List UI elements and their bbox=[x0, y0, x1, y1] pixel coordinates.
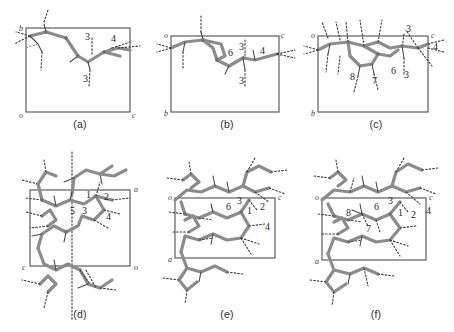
hydrogen-bond bbox=[189, 162, 191, 174]
hydrogen-bond bbox=[30, 226, 48, 228]
ring-label-1: 1 bbox=[398, 207, 403, 218]
axis-label-b: b bbox=[19, 24, 23, 33]
molecular-chain bbox=[318, 42, 428, 50]
ring-label-3-lower: 3 bbox=[404, 69, 409, 80]
substituent-bond bbox=[358, 66, 360, 76]
atom-node bbox=[388, 212, 391, 215]
hydrogen-bond bbox=[336, 22, 340, 40]
hydrogen-bond bbox=[169, 212, 185, 214]
ring-motif bbox=[40, 276, 56, 292]
substituent-bond bbox=[78, 284, 88, 288]
panel-d: a o c 1 2 5 3 4 (d) bbox=[8, 148, 152, 324]
hydrogen-bond bbox=[269, 188, 285, 194]
ring-label-4: 4 bbox=[106, 211, 111, 222]
atom-node bbox=[201, 38, 204, 41]
axis-label-b: b bbox=[164, 109, 168, 118]
hydrogen-bond bbox=[277, 54, 295, 58]
hydrogen-bond bbox=[310, 280, 326, 282]
atom-node bbox=[215, 58, 218, 61]
axis-label-b: b bbox=[311, 109, 315, 118]
panel-f: o c a 3 6 1 2 4 8 7 (f) bbox=[302, 148, 450, 324]
hydrogen-bond bbox=[41, 52, 42, 70]
ring-label-3-upper: 3 bbox=[85, 31, 90, 42]
ring-label-2: 2 bbox=[411, 209, 416, 220]
hydrogen-bond bbox=[360, 20, 364, 46]
hydrogen-bond bbox=[378, 274, 394, 276]
axis-label-a: a bbox=[134, 185, 138, 194]
ring-label-8: 8 bbox=[346, 207, 351, 218]
hydrogen-bond bbox=[96, 182, 100, 196]
panel-e-caption: (e) bbox=[155, 308, 299, 320]
ring-label-3: 3 bbox=[82, 205, 87, 216]
substituent-bond bbox=[199, 272, 201, 282]
substituent-bond bbox=[362, 176, 364, 186]
substituent-bond bbox=[225, 66, 229, 74]
axis-label-o: o bbox=[168, 193, 172, 202]
substituent-bond bbox=[213, 176, 215, 186]
hydrogen-bond bbox=[376, 220, 380, 232]
molecular-chain bbox=[30, 32, 120, 62]
panel-c-caption: (c) bbox=[302, 118, 450, 130]
ring-label-1: 1 bbox=[247, 205, 252, 216]
molecular-chain bbox=[104, 48, 130, 52]
ring-label-2: 2 bbox=[260, 201, 265, 212]
panel-d-diagram: a o c 1 2 5 3 4 bbox=[8, 148, 152, 324]
panel-c-diagram: o c b 3 4 8 7 6 3 bbox=[302, 4, 450, 124]
panel-a-diagram: b o c 3 4 3 bbox=[8, 4, 152, 124]
ring-label-4: 4 bbox=[433, 41, 438, 52]
atom-node bbox=[241, 56, 244, 59]
ring-motif bbox=[38, 172, 56, 184]
atom-node bbox=[40, 198, 43, 201]
hydrogen-bond bbox=[185, 290, 187, 304]
axis-label-c: c bbox=[281, 31, 285, 40]
molecular-chain bbox=[243, 166, 271, 186]
ring-motif-5 bbox=[42, 210, 56, 226]
ring-label-4: 4 bbox=[260, 45, 265, 56]
axis-label-c: c bbox=[429, 193, 433, 202]
hydrogen-bond bbox=[418, 48, 432, 66]
hydrogen-bond bbox=[44, 160, 46, 172]
ring-label-1: 1 bbox=[86, 189, 91, 200]
hydrogen-bond bbox=[157, 44, 171, 48]
hydrogen-bond bbox=[390, 240, 408, 246]
panel-b-caption: (b) bbox=[155, 118, 299, 130]
ring-motif-6 bbox=[378, 50, 398, 56]
ring-label-4: 4 bbox=[265, 221, 270, 232]
hydrogen-bond bbox=[346, 22, 348, 42]
panel-f-caption: (f) bbox=[302, 308, 450, 320]
atom-node bbox=[183, 212, 186, 215]
ring-label-6: 6 bbox=[228, 47, 233, 58]
hydrogen-bond bbox=[271, 170, 287, 172]
ring-label-6: 6 bbox=[374, 201, 379, 212]
hydrogen-bond bbox=[304, 50, 318, 54]
hydrogen-bond bbox=[89, 70, 90, 86]
hydrogen-bond bbox=[338, 56, 340, 74]
hydrogen-bond bbox=[163, 278, 179, 280]
panel-b-diagram: o c b 3 4 6 3 bbox=[155, 4, 299, 124]
atom-node bbox=[239, 210, 242, 213]
hydrogen-bond bbox=[26, 198, 42, 200]
ring-label-6: 6 bbox=[226, 201, 231, 212]
hydrogen-bond bbox=[400, 226, 416, 228]
hydrogen-bond bbox=[422, 168, 438, 170]
panel-d-caption: (d) bbox=[8, 308, 152, 320]
substituent-bond bbox=[352, 210, 362, 214]
molecular-chain bbox=[38, 248, 80, 270]
substituent-bond bbox=[360, 204, 362, 214]
axis-label-o: o bbox=[315, 193, 319, 202]
hydrogen-bond bbox=[22, 280, 40, 284]
substituent-bond bbox=[348, 274, 350, 284]
hydrogen-bond bbox=[348, 220, 362, 222]
ring-label-4: 4 bbox=[111, 33, 116, 44]
hydrogen-bond bbox=[199, 218, 213, 220]
ring-label-3-upper: 3 bbox=[239, 41, 244, 52]
ring-label-3-top: 3 bbox=[406, 23, 411, 34]
atom-node bbox=[76, 54, 79, 57]
ring-label-7: 7 bbox=[372, 75, 377, 86]
hydrogen-bond bbox=[167, 178, 183, 180]
atom-node bbox=[94, 194, 97, 197]
hydrogen-bond bbox=[326, 54, 328, 72]
ring-label-5: 5 bbox=[70, 205, 75, 216]
axis-label-a: a bbox=[168, 255, 172, 264]
hydrogen-bond bbox=[249, 224, 265, 226]
